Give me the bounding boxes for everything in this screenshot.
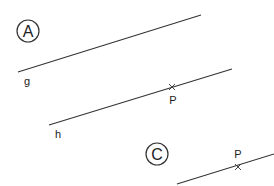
line-c xyxy=(177,154,274,184)
panel-c-label: C xyxy=(151,146,163,163)
panel-a-marker: A xyxy=(17,20,39,42)
line-h xyxy=(49,69,232,125)
point-p-c-label: P xyxy=(234,148,241,160)
geometry-diagram: A g h P C P xyxy=(0,0,274,186)
line-g-label: g xyxy=(24,75,30,87)
line-h-label: h xyxy=(55,128,61,140)
point-p-label: P xyxy=(169,94,176,106)
panel-c-marker: C xyxy=(146,143,168,165)
line-g xyxy=(18,15,201,72)
panel-a-label: A xyxy=(23,23,34,40)
